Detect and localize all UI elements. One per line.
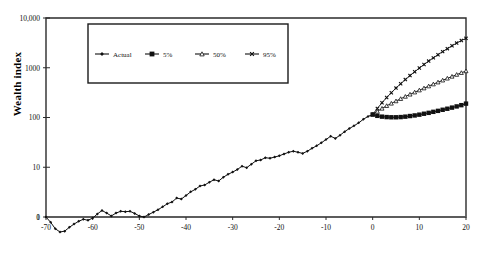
x-tick-label: 0 xyxy=(371,223,375,232)
marker-triangle xyxy=(441,78,445,82)
marker-cross xyxy=(427,60,430,63)
marker-square xyxy=(431,110,435,114)
marker-cross xyxy=(432,56,435,59)
marker-square xyxy=(412,113,416,117)
x-tick-label: -30 xyxy=(228,223,238,232)
x-tick-label: -50 xyxy=(134,223,144,232)
marker-triangle xyxy=(389,101,393,105)
marker-triangle xyxy=(436,80,440,84)
marker-cross xyxy=(385,96,388,99)
x-tick-label: -40 xyxy=(181,223,191,232)
marker-diamond xyxy=(301,152,304,155)
y-tick-label: 1000 xyxy=(25,64,40,73)
marker-cross xyxy=(436,53,439,56)
marker-triangle xyxy=(450,74,454,78)
x-tick-label: 10 xyxy=(416,223,424,232)
marker-cross xyxy=(450,44,453,47)
marker-cross xyxy=(380,101,383,104)
series-line xyxy=(46,114,373,231)
marker-triangle xyxy=(399,97,403,101)
marker-square xyxy=(436,109,440,113)
legend-label: Actual xyxy=(113,51,132,59)
marker-square xyxy=(389,115,393,119)
marker-triangle xyxy=(403,95,407,99)
marker-square xyxy=(440,108,444,112)
marker-diamond xyxy=(287,151,290,154)
marker-triangle xyxy=(455,73,459,77)
marker-triangle xyxy=(413,90,417,94)
marker-triangle xyxy=(431,82,435,86)
x-tick-label: -70 xyxy=(41,223,51,232)
x-tick-label: -20 xyxy=(274,223,284,232)
marker-square xyxy=(426,111,430,115)
marker-square xyxy=(375,114,379,118)
marker-cross xyxy=(404,78,407,81)
marker-diamond xyxy=(264,156,267,159)
series-5pct xyxy=(370,101,468,119)
chart-figure: Wealth index 110100100010,000-70-60-50-4… xyxy=(0,0,486,254)
y-tick-label: 10 xyxy=(33,163,41,172)
legend-label: 95% xyxy=(263,51,276,59)
marker-triangle xyxy=(417,88,421,92)
marker-triangle xyxy=(459,71,463,75)
marker-square xyxy=(150,52,155,57)
marker-cross xyxy=(399,82,402,85)
marker-diamond xyxy=(278,154,281,157)
marker-square xyxy=(403,114,407,118)
marker-square xyxy=(454,104,458,108)
marker-square xyxy=(370,112,374,116)
marker-diamond xyxy=(292,150,295,153)
origin-label: 0 xyxy=(36,213,40,222)
marker-cross xyxy=(390,91,393,94)
marker-square xyxy=(394,115,398,119)
marker-triangle xyxy=(464,69,468,73)
marker-square xyxy=(450,105,454,109)
marker-triangle xyxy=(422,86,426,90)
marker-triangle xyxy=(445,76,449,80)
y-tick-label: 100 xyxy=(29,113,41,122)
plot-area: 110100100010,000-70-60-50-40-30-20-10010… xyxy=(0,0,486,254)
marker-cross xyxy=(408,74,411,77)
marker-cross xyxy=(455,41,458,44)
marker-cross xyxy=(460,39,463,42)
marker-cross xyxy=(394,86,397,89)
marker-triangle xyxy=(427,84,431,88)
x-tick-label: -60 xyxy=(88,223,98,232)
marker-diamond xyxy=(269,157,272,160)
marker-cross xyxy=(446,47,449,50)
x-tick-label: -10 xyxy=(321,223,331,232)
chart-svg: 110100100010,000-70-60-50-40-30-20-10010… xyxy=(0,0,486,254)
marker-diamond xyxy=(259,158,262,161)
marker-triangle xyxy=(408,92,412,96)
marker-square xyxy=(384,115,388,119)
x-tick-label: 20 xyxy=(462,223,470,232)
marker-triangle xyxy=(394,99,398,103)
series-Actual xyxy=(45,113,375,233)
marker-diamond xyxy=(87,219,90,222)
marker-triangle xyxy=(380,106,384,110)
marker-square xyxy=(422,112,426,116)
marker-square xyxy=(408,114,412,118)
marker-diamond xyxy=(283,152,286,155)
marker-cross xyxy=(422,63,425,66)
marker-cross xyxy=(441,50,444,53)
marker-cross xyxy=(418,66,421,69)
legend-label: 50% xyxy=(213,51,226,59)
marker-square xyxy=(398,115,402,119)
marker-diamond xyxy=(273,156,276,159)
legend-label: 5% xyxy=(163,51,173,59)
marker-square xyxy=(459,103,463,107)
marker-diamond xyxy=(119,210,122,213)
marker-diamond xyxy=(297,151,300,154)
marker-diamond xyxy=(124,210,127,213)
marker-diamond xyxy=(82,218,85,221)
marker-square xyxy=(445,107,449,111)
marker-square xyxy=(380,114,384,118)
marker-square xyxy=(417,112,421,116)
marker-diamond xyxy=(129,210,132,213)
y-tick-label: 10,000 xyxy=(19,14,40,23)
marker-cross xyxy=(413,70,416,73)
marker-square xyxy=(464,101,468,105)
marker-triangle xyxy=(385,104,389,108)
